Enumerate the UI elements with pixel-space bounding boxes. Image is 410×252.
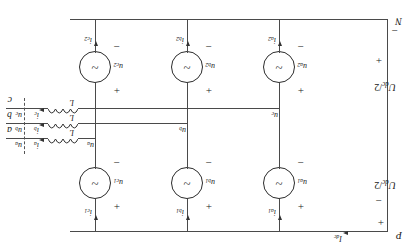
ac-current-c-arrow-icon: [39, 138, 44, 142]
leg-a-wire-top: [279, 20, 280, 53]
inductor-b-label: L: [70, 113, 74, 121]
mid-node-c-label: ua: [87, 140, 94, 149]
source-a1-minus: −: [298, 157, 304, 168]
leg-a-wire-mid-low: [279, 109, 280, 169]
source-a2-current-arrow-icon: [278, 41, 282, 46]
terminal-c-label: a: [7, 125, 12, 135]
mid-node-b-label: ub: [179, 125, 186, 134]
source-c1: ~: [79, 167, 111, 199]
dc-current-label: Idc: [334, 233, 342, 242]
source-b2-current-label: ib2: [176, 35, 184, 44]
terminal-reference-dashed-line: [24, 98, 25, 154]
source-b2-voltage-label: ub2: [205, 61, 215, 70]
dc-rail-n-sign: −: [392, 25, 398, 36]
leg-c-wire-mid-high: [95, 83, 96, 139]
source-a2-voltage-label: ua2: [297, 61, 307, 70]
source-a2-plus: +: [298, 85, 304, 96]
ac-branch-a-wire: [78, 108, 280, 109]
node-label-p: P: [396, 230, 402, 240]
dc-source-2-plus: +: [376, 55, 382, 66]
source-b2-current-arrow-icon: [186, 41, 190, 46]
source-c2-voltage-label: uc2: [114, 61, 123, 70]
source-b1-voltage-label: ub1: [205, 177, 215, 186]
source-b1-current-arrow-icon: [186, 215, 190, 220]
source-a1: ~: [263, 167, 295, 199]
source-b1-plus: +: [206, 201, 212, 212]
source-a2: ~: [263, 51, 295, 83]
source-b2-plus: +: [206, 85, 212, 96]
ac-current-b-arrow-icon: [39, 123, 44, 127]
source-c1-current-arrow-icon: [94, 215, 98, 220]
leg-b-wire-mid-high: [187, 83, 188, 124]
source-b2-minus: −: [206, 41, 212, 52]
source-c2-minus: −: [114, 41, 120, 52]
source-a2-minus: −: [298, 41, 304, 52]
circuit-canvas: N − P + Idc Udc/2 − Udc/2 + ~ ~ ua1 − + …: [0, 0, 410, 252]
source-a1-voltage-label: ua1: [297, 177, 307, 186]
terminal-b-label: b: [7, 110, 12, 120]
dc-rail-n: [70, 19, 388, 20]
terminal-voltage-c-label: ua: [15, 140, 22, 149]
source-c2: ~: [79, 51, 111, 83]
source-b2: ~: [171, 51, 203, 83]
source-c2-current-arrow-icon: [94, 41, 98, 46]
dc-rail-p-sign: +: [378, 217, 384, 228]
leg-a-wire-mid-high: [279, 83, 280, 109]
dc-left-rail: [387, 20, 388, 232]
inductor-c-label: L: [70, 128, 74, 136]
source-b1-minus: −: [206, 157, 212, 168]
dc-source-label-1: Udc/2: [374, 178, 396, 190]
inductor-a-label: L: [70, 98, 74, 106]
source-c2-current-label: ic2: [84, 35, 92, 44]
source-c1-plus: +: [114, 201, 120, 212]
dc-source-1-minus: −: [376, 195, 382, 206]
dc-source-label-2: Udc/2: [374, 80, 396, 92]
leg-b-wire-mid-low: [187, 124, 188, 169]
source-c1-current-label: ic1: [84, 207, 92, 216]
terminal-a-label: c: [8, 95, 12, 105]
terminal-voltage-a-label: uc: [15, 110, 22, 119]
source-a1-plus: +: [298, 201, 304, 212]
source-c1-minus: −: [114, 157, 120, 168]
source-b1: ~: [171, 167, 203, 199]
source-c2-plus: +: [114, 85, 120, 96]
ac-branch-b-wire: [78, 123, 188, 124]
source-a1-current-label: ia1: [268, 207, 276, 216]
source-a1-current-arrow-icon: [278, 215, 282, 220]
leg-c-wire-mid-low: [95, 139, 96, 169]
ac-current-a-arrow-icon: [39, 108, 44, 112]
source-b1-current-label: ib1: [176, 207, 184, 216]
terminal-voltage-b-label: ub: [15, 125, 22, 134]
source-c1-voltage-label: uc1: [114, 177, 123, 186]
dc-current-arrow-icon: [343, 231, 348, 235]
source-a2-current-label: ia2: [268, 35, 276, 44]
leg-b-wire-top: [187, 20, 188, 53]
leg-c-wire-top: [95, 20, 96, 53]
mid-node-a-label: uc: [271, 110, 278, 119]
